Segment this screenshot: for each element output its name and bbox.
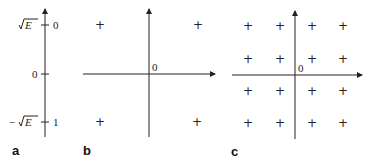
plus-marker-icon: +	[338, 19, 348, 33]
plus-marker-icon: +	[95, 18, 105, 32]
panel-c: 0 ++++++++++++++++ c	[231, 11, 362, 159]
plus-marker-icon: +	[192, 115, 202, 129]
sqrt-e-text: E	[24, 19, 32, 31]
panel-label-b: b	[83, 143, 91, 158]
constellation-diagram: E 0 0 − E 1 a 0 ++++ b 0 +++++++++++++++…	[0, 0, 374, 168]
plus-marker-icon: +	[275, 19, 285, 33]
plus-marker-icon: +	[307, 116, 317, 130]
zero-label: 0	[32, 68, 38, 80]
plus-marker-icon: +	[307, 84, 317, 98]
plus-marker-icon: +	[338, 52, 348, 66]
panel-label-a: a	[12, 143, 20, 158]
label-sqrt-e: E	[19, 19, 38, 31]
plus-marker-icon: +	[275, 84, 285, 98]
plus-marker-icon: +	[275, 116, 285, 130]
plus-marker-icon: +	[243, 52, 253, 66]
panel-a: E 0 0 − E 1 a	[9, 9, 59, 158]
label-neg-sqrt-e: − E	[9, 116, 38, 128]
bit-label-0: 0	[53, 19, 59, 31]
minus-sign: −	[9, 116, 15, 128]
panel-b: 0 ++++ b	[83, 9, 215, 158]
plus-marker-icon: +	[193, 18, 203, 32]
origin-label: 0	[152, 61, 158, 73]
plus-marker-icon: +	[243, 84, 253, 98]
bit-label-1: 1	[53, 116, 59, 128]
plus-marker-icon: +	[338, 116, 348, 130]
plus-marker-icon: +	[243, 19, 253, 33]
plus-marker-icon: +	[338, 84, 348, 98]
panel-label-c: c	[231, 144, 238, 159]
origin-label: 0	[298, 62, 304, 74]
neg-sqrt-e-text: E	[24, 116, 32, 128]
plus-marker-icon: +	[275, 52, 285, 66]
plus-marker-icon: +	[243, 116, 253, 130]
plus-marker-icon: +	[95, 115, 105, 129]
plus-marker-icon: +	[307, 19, 317, 33]
plus-marker-icon: +	[307, 52, 317, 66]
